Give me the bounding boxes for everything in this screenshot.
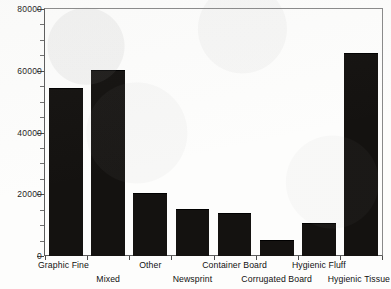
y-axis-minor-tick: [40, 24, 44, 25]
y-axis-minor-tick: [40, 148, 44, 149]
bar-graphic-fine: [49, 88, 83, 256]
y-axis-tick-label: 40000: [17, 129, 42, 138]
y-axis-minor-tick: [40, 55, 44, 56]
x-axis-label-hygienic-fluff: Hygienic Fluff: [292, 261, 346, 270]
bar-mixed: [91, 70, 125, 256]
y-axis-minor-tick: [40, 86, 44, 87]
x-axis-label-corrugated-board: Corrugated Board: [241, 275, 312, 284]
bar-chart-figure: 020000400006000080000 Graphic FineMixedO…: [0, 0, 391, 289]
x-axis-label-other: Other: [139, 261, 161, 270]
x-axis-tick: [382, 256, 383, 260]
x-axis-label-container-board: Container Board: [202, 261, 267, 270]
x-axis-label-graphic-fine: Graphic Fine: [38, 261, 89, 270]
y-axis-minor-tick: [40, 163, 44, 164]
y-axis-minor-tick: [40, 102, 44, 103]
y-axis-minor-tick: [40, 210, 44, 211]
y-axis-minor-tick: [40, 179, 44, 180]
bar-corrugated-board: [260, 240, 294, 256]
x-axis-label-hygienic-tissue: Hygienic Tissue: [328, 275, 390, 284]
y-axis-tick-label: 20000: [17, 190, 42, 199]
x-axis-label-mixed: Mixed: [96, 275, 120, 284]
y-axis-minor-tick: [40, 117, 44, 118]
x-axis-tick: [129, 256, 130, 260]
plot-area: [45, 9, 382, 256]
x-axis-label-newsprint: Newsprint: [173, 275, 213, 284]
bar-newsprint: [176, 209, 210, 256]
y-axis-minor-tick: [40, 225, 44, 226]
y-axis-minor-tick: [40, 40, 44, 41]
y-axis-minor-tick: [40, 241, 44, 242]
bar-hygienic-fluff: [302, 223, 336, 256]
x-axis-tick: [171, 256, 172, 260]
bar-hygienic-tissue: [344, 53, 378, 256]
y-axis-tick-label: 80000: [17, 5, 42, 14]
y-axis-tick-label: 60000: [17, 67, 42, 76]
bar-container-board: [218, 213, 252, 256]
bar-other: [133, 193, 167, 256]
